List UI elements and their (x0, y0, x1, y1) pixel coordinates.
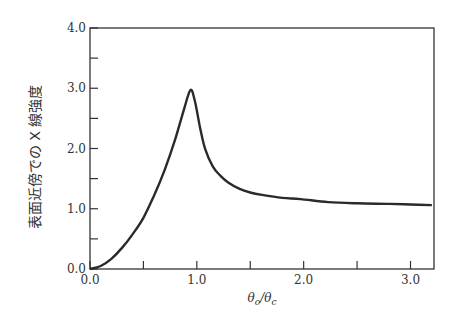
x-axis-title: θo/θc (248, 291, 277, 307)
x-tick-label: 3.0 (401, 273, 420, 287)
x-tick-label: 1.0 (187, 273, 206, 287)
y-tick-label: 2.0 (67, 142, 86, 156)
y-tick-label: 3.0 (67, 81, 86, 95)
y-tick-label: 0.0 (67, 262, 86, 276)
y-tick-label: 1.0 (67, 202, 86, 216)
plot-border (90, 28, 434, 269)
plot-frame (90, 28, 434, 269)
y-axis-title: 表面近傍での X 線強度 (27, 85, 43, 230)
y-tick-label: 4.0 (67, 21, 86, 35)
plot-series (90, 90, 432, 269)
chart: 0.01.02.03.0 0.01.02.03.04.0 θo/θc 表面近傍で… (0, 0, 461, 322)
y-axis: 0.01.02.03.04.0 (67, 21, 98, 276)
x-tick-label: 2.0 (294, 273, 313, 287)
intensity-curve (90, 90, 432, 269)
x-axis: 0.01.02.03.0 (80, 261, 420, 287)
